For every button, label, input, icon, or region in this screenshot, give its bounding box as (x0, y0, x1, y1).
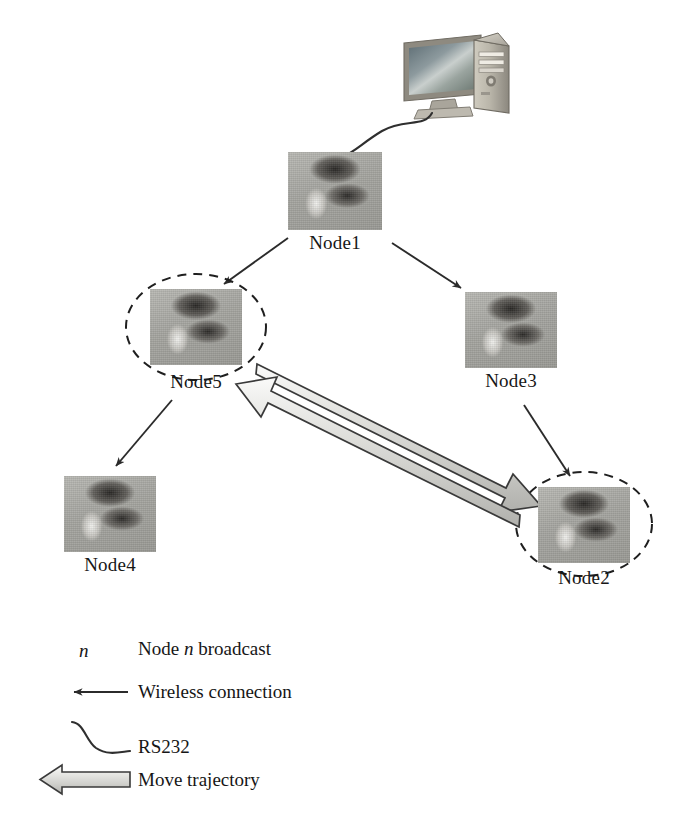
legend-broadcast-suffix: broadcast (193, 638, 271, 659)
legend: n Node n broadcast Wireless connection R… (0, 0, 700, 814)
legend-label-wireless: Wireless connection (138, 681, 292, 703)
legend-label-rs232: RS232 (138, 736, 190, 758)
legend-broadcast-n-symbol: n (79, 640, 89, 662)
legend-broadcast-italic-n: n (184, 638, 194, 659)
legend-item-rs232: RS232 (138, 736, 190, 758)
legend-item-move-trajectory: Move trajectory (138, 769, 260, 791)
legend-broadcast-prefix: Node (138, 638, 184, 659)
legend-label-move-trajectory: Move trajectory (138, 769, 260, 791)
legend-label-broadcast: Node n broadcast (138, 638, 271, 660)
legend-item-broadcast: Node n broadcast (138, 638, 271, 660)
legend-item-wireless: Wireless connection (138, 681, 292, 703)
